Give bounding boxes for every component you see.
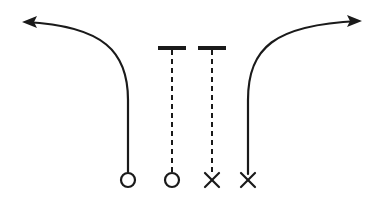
diagram-background <box>0 0 382 197</box>
play-diagram-svg <box>0 0 382 197</box>
play-diagram-canvas <box>0 0 382 197</box>
